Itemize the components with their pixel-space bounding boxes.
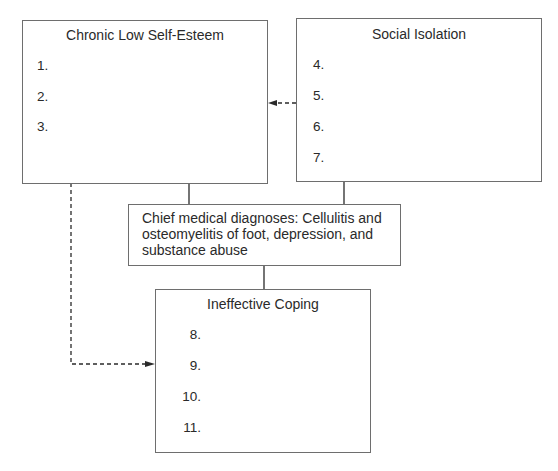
box-chronic-low-self-esteem: Chronic Low Self-Esteem 1. 2. 3.	[22, 20, 268, 184]
list-item: 9.	[156, 358, 201, 373]
box-title: Social Isolation	[297, 26, 541, 42]
box-social-isolation: Social Isolation 4. 5. 6. 7.	[296, 18, 542, 182]
list-item: 6.	[313, 119, 324, 134]
list-item: 1.	[37, 58, 48, 73]
list-item: 8.	[156, 327, 201, 342]
box-title: Ineffective Coping	[156, 296, 370, 312]
box-title: Chronic Low Self-Esteem	[23, 27, 267, 43]
list-item: 2.	[37, 89, 48, 104]
box-chief-medical-diagnoses: Chief medical diagnoses: Cellulitis and …	[128, 204, 401, 266]
diagnoses-text: Chief medical diagnoses: Cellulitis and …	[142, 210, 392, 258]
arrowhead-right-icon	[145, 361, 155, 367]
list-item: 5.	[313, 88, 324, 103]
list-item: 7.	[313, 150, 324, 165]
list-item: 11.	[156, 420, 201, 435]
arrowhead-left-icon	[268, 100, 277, 106]
list-item: 3.	[37, 119, 48, 134]
list-item: 10.	[156, 389, 201, 404]
box-ineffective-coping: Ineffective Coping 8. 9. 10. 11.	[155, 289, 371, 453]
list-item: 4.	[313, 57, 324, 72]
